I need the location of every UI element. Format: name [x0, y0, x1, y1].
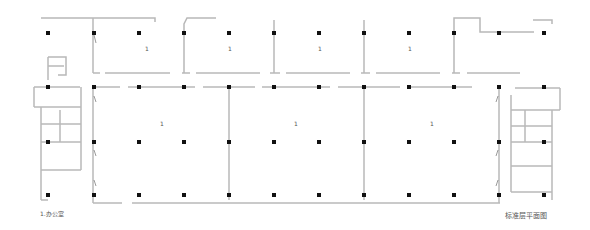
room-label: 1: [145, 45, 149, 52]
room-label: 1: [318, 45, 322, 52]
room-label: 1: [408, 45, 412, 52]
legend-text: 1.办公室: [40, 209, 64, 218]
room-label: 1: [160, 120, 164, 127]
columns: [46, 31, 546, 197]
room-label: 1: [294, 120, 298, 127]
drawing-title: 标准层平面图: [505, 210, 547, 220]
room-label: 1: [430, 120, 434, 127]
door-swings: [94, 35, 498, 186]
floor-plan: [0, 0, 590, 230]
walls: [34, 18, 560, 203]
room-label: 1: [228, 45, 232, 52]
